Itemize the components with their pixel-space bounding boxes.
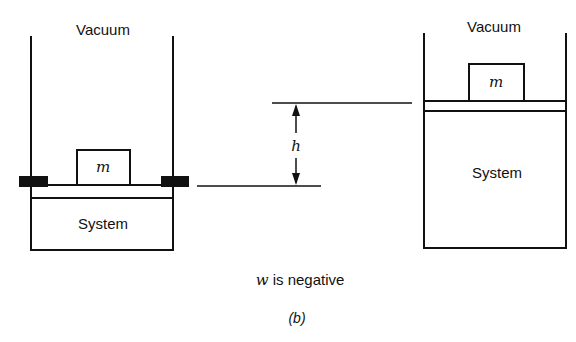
caption: w is negative (b) <box>256 271 345 326</box>
left-stop <box>19 176 48 187</box>
height-label: h <box>291 137 301 155</box>
right-vacuum-label: Vacuum <box>467 18 521 35</box>
work-expansion-diagram: Vacuum m System h Vacuum m System <box>0 0 576 342</box>
down-arrow-icon <box>292 173 300 185</box>
right-system-label: System <box>472 164 522 181</box>
right-mass-label: m <box>489 73 503 91</box>
left-system-label: System <box>78 215 128 232</box>
height-indicator: h <box>197 103 412 186</box>
left-vacuum-label: Vacuum <box>76 21 130 38</box>
figure-label: (b) <box>288 310 305 326</box>
right-container: Vacuum m System <box>423 18 567 248</box>
left-container: Vacuum m System <box>19 21 189 250</box>
work-symbol: w <box>256 271 269 289</box>
left-mass-label: m <box>96 158 110 176</box>
caption-statement: is negative <box>268 271 344 288</box>
up-arrow-icon <box>292 104 300 116</box>
caption-text: w is negative <box>256 271 345 289</box>
right-stop <box>161 176 189 187</box>
